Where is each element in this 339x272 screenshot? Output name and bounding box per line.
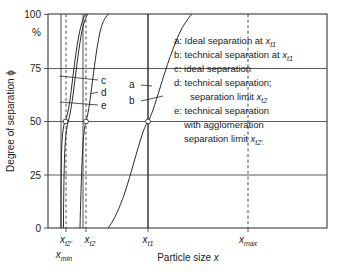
legend-line-a-sub: t1: [270, 41, 276, 48]
legend: a: Ideal separation at xt1 b: technical …: [174, 35, 293, 146]
y-axis-title-text: Degree of separation: [5, 78, 16, 171]
curve-label-e: e: [101, 100, 107, 111]
legend-line-d-cont-sub: t2: [261, 97, 267, 104]
legend-line-e: e: technical separation: [174, 105, 269, 116]
ytick-label-50: 50: [30, 116, 42, 127]
separation-curve-chart: 100 75 50 25 0 % Degree of separation ϕ: [0, 0, 339, 272]
legend-line-e-cont1: with agglomeration: [183, 119, 264, 130]
legend-line-e-cont2: separation limit xt2'.: [184, 133, 264, 146]
x-axis-title-prefix: Particle size: [157, 252, 214, 263]
y-unit-label: %: [32, 27, 41, 38]
svg-text:Degree of separation ϕ: Degree of separation ϕ: [5, 70, 16, 172]
legend-line-a-prefix: a: Ideal separation at: [174, 35, 265, 46]
figure-container: 100 75 50 25 0 % Degree of separation ϕ: [0, 0, 339, 272]
legend-line-b-prefix: b: technical separation at: [174, 49, 282, 60]
legend-line-d-cont: separation limit xt2: [190, 91, 267, 104]
xtick-label-xt2: xt2: [84, 234, 96, 247]
legend-line-b-sub: t1: [287, 55, 293, 62]
xtick-label-xt2prime-sub: t2': [65, 240, 73, 247]
legend-line-b: b: technical separation at xt1: [174, 49, 293, 62]
marker-xt2prime-50: [63, 119, 68, 124]
leader-line-a: [141, 85, 152, 86]
legend-line-c: c: ideal separation: [174, 63, 251, 74]
ytick-label-100: 100: [24, 9, 41, 20]
legend-line-d-cont-prefix: separation limit: [190, 91, 257, 102]
ytick-label-0: 0: [35, 223, 41, 234]
ytick-label-25: 25: [30, 170, 42, 181]
legend-line-d: d: technical separation;: [174, 77, 272, 88]
leader-line-b: [141, 96, 163, 101]
xtick-label-xmax-sub: max: [244, 240, 258, 247]
xtick-label-xt2-sub: t2: [90, 240, 96, 247]
legend-line-e-cont2-prefix: separation limit: [184, 133, 251, 144]
y-axis-symbol: ϕ: [5, 70, 16, 76]
xtick-label-xt1-sub: t1: [148, 240, 154, 247]
curve-label-c: c: [101, 75, 106, 86]
x-axis-title-var: x: [213, 252, 220, 263]
curve-label-b: b: [129, 95, 135, 106]
ytick-label-75: 75: [30, 63, 42, 74]
legend-line-a: a: Ideal separation at xt1: [174, 35, 276, 48]
xtick-label-xt1: xt1: [142, 234, 154, 247]
marker-xt1-50: [146, 119, 151, 124]
marker-xt2-50: [84, 119, 89, 124]
y-axis-title: Degree of separation ϕ: [5, 70, 16, 172]
legend-line-e-cont2-sub: t2'.: [255, 139, 264, 146]
xtick-label-xt2prime: xt2': [59, 234, 73, 247]
curve-label-a: a: [129, 79, 135, 90]
xtick-label-xmin-sub: min: [61, 255, 72, 262]
curve-label-d: d: [101, 87, 107, 98]
xtick-label-xmin: xmin: [55, 249, 72, 262]
x-axis-title: Particle size x: [157, 252, 220, 263]
xtick-label-xmax: xmax: [238, 234, 258, 247]
